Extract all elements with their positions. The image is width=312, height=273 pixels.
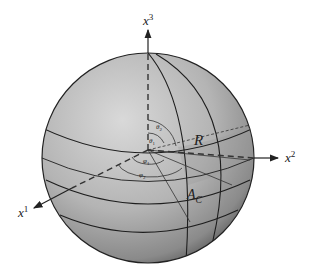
x2-axis-label: x2 <box>285 150 295 164</box>
x3-axis-label: x3 <box>143 13 153 27</box>
sphere-diagram: x3 x2 x1 R AC θ1 θ2 φ1 φ2 <box>0 0 312 273</box>
sphere-svg <box>0 0 312 273</box>
phi1-label: φ1 <box>143 158 149 167</box>
phi2-label: φ2 <box>139 172 145 181</box>
area-label: AC <box>187 188 202 205</box>
theta2-label: θ2 <box>156 124 162 133</box>
theta1-label: θ1 <box>149 138 155 147</box>
x1-axis-label: x1 <box>18 205 28 219</box>
radius-label: R <box>194 133 203 148</box>
